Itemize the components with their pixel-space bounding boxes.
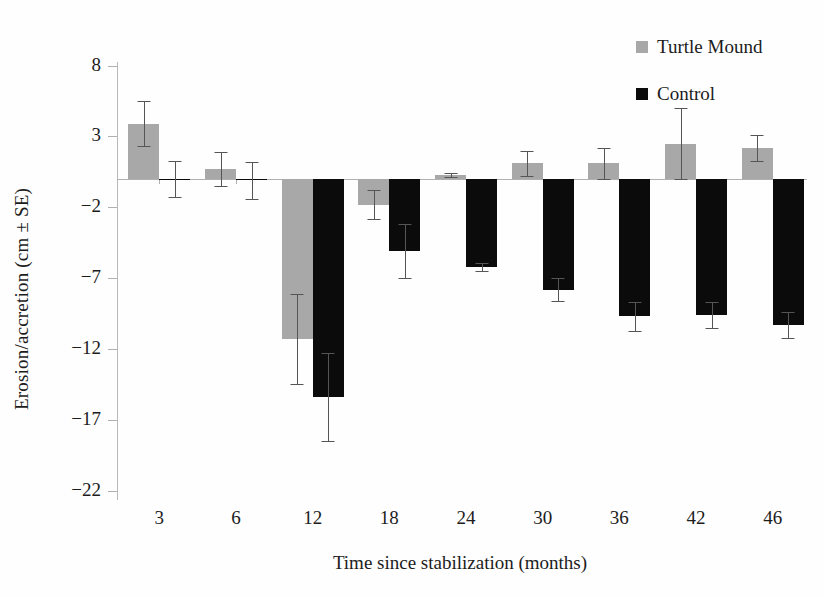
bar-control-46 bbox=[773, 179, 804, 325]
y-axis-tick-label: −17 bbox=[71, 408, 101, 430]
error-bar-cap bbox=[137, 101, 150, 102]
error-bar bbox=[788, 312, 789, 338]
error-bar-cap bbox=[214, 152, 227, 153]
x-axis-tick-label: 24 bbox=[457, 507, 476, 529]
legend-label: Control bbox=[657, 83, 715, 105]
y-axis-line bbox=[117, 62, 118, 500]
error-bar bbox=[175, 161, 176, 198]
error-bar-cap bbox=[628, 302, 641, 303]
error-bar bbox=[221, 152, 222, 186]
y-axis-tick: −7 bbox=[108, 278, 117, 279]
error-bar-cap bbox=[291, 294, 304, 295]
error-bar bbox=[558, 278, 559, 301]
error-bar-cap bbox=[245, 162, 258, 163]
error-bar-cap bbox=[444, 177, 457, 178]
error-bar-cap bbox=[291, 384, 304, 385]
error-bar-cap bbox=[674, 179, 687, 180]
y-axis-tick: −12 bbox=[108, 349, 117, 350]
error-bar bbox=[757, 135, 758, 161]
y-axis-tick-label: 3 bbox=[92, 124, 102, 146]
error-bar-cap bbox=[398, 278, 411, 279]
y-axis-title: Erosion/accretion (cm ± SE) bbox=[0, 0, 44, 598]
error-bar-cap bbox=[398, 224, 411, 225]
y-axis-tick: −2 bbox=[108, 207, 117, 208]
y-axis-tick-label: −7 bbox=[81, 266, 101, 288]
x-axis-tick-label: 46 bbox=[763, 507, 782, 529]
error-bar-cap bbox=[214, 186, 227, 187]
y-axis-tick-label: −12 bbox=[71, 337, 101, 359]
error-bar-cap bbox=[444, 173, 457, 174]
error-bar-cap bbox=[751, 161, 764, 162]
error-bar bbox=[482, 263, 483, 272]
error-bar bbox=[328, 353, 329, 441]
x-axis-tick-label: 18 bbox=[380, 507, 399, 529]
legend-swatch-icon bbox=[636, 41, 648, 53]
error-bar-cap bbox=[552, 301, 565, 302]
y-axis-tick: 8 bbox=[108, 66, 117, 67]
y-axis-tick: 3 bbox=[108, 136, 117, 137]
error-bar bbox=[405, 224, 406, 278]
bar-control-42 bbox=[696, 179, 727, 315]
error-bar-cap bbox=[475, 271, 488, 272]
error-bar-cap bbox=[705, 302, 718, 303]
error-bar bbox=[252, 162, 253, 199]
error-bar bbox=[144, 101, 145, 146]
error-bar bbox=[604, 148, 605, 179]
y-axis-tick-label: −22 bbox=[71, 479, 101, 501]
error-bar-cap bbox=[168, 197, 181, 198]
error-bar bbox=[527, 151, 528, 177]
error-bar-cap bbox=[137, 146, 150, 147]
error-bar-cap bbox=[628, 331, 641, 332]
error-bar-cap bbox=[552, 278, 565, 279]
error-bar-cap bbox=[782, 338, 795, 339]
y-axis-tick-label: −2 bbox=[81, 195, 101, 217]
legend-swatch-icon bbox=[636, 88, 648, 100]
error-bar-cap bbox=[245, 199, 258, 200]
y-axis-tick: −17 bbox=[108, 420, 117, 421]
error-bar-cap bbox=[367, 219, 380, 220]
x-axis-title: Time since stabilization (months) bbox=[110, 552, 810, 574]
chart-figure: Erosion/accretion (cm ± SE) 83−2−7−12−17… bbox=[0, 0, 824, 598]
x-axis-tick-label: 42 bbox=[687, 507, 706, 529]
error-bar-cap bbox=[322, 441, 335, 442]
error-bar bbox=[712, 302, 713, 328]
error-bar-cap bbox=[168, 161, 181, 162]
x-axis-tick-label: 6 bbox=[231, 507, 241, 529]
x-axis-tick-label: 30 bbox=[533, 507, 552, 529]
error-bar-cap bbox=[597, 179, 610, 180]
bar-control-30 bbox=[543, 179, 574, 290]
error-bar-cap bbox=[322, 353, 335, 354]
x-axis-tick-label: 12 bbox=[303, 507, 322, 529]
error-bar-cap bbox=[782, 312, 795, 313]
y-axis-tick: −22 bbox=[108, 491, 117, 492]
bar-control-24 bbox=[466, 179, 497, 267]
error-bar-cap bbox=[367, 190, 380, 191]
error-bar bbox=[635, 302, 636, 330]
x-axis-tick-label: 3 bbox=[155, 507, 165, 529]
error-bar-cap bbox=[521, 176, 534, 177]
error-bar-cap bbox=[597, 148, 610, 149]
chart-legend: Turtle MoundControl bbox=[636, 36, 762, 130]
error-bar bbox=[297, 294, 298, 385]
y-axis-tick-label: 8 bbox=[92, 54, 102, 76]
legend-item: Control bbox=[636, 83, 762, 105]
legend-label: Turtle Mound bbox=[657, 36, 762, 58]
x-axis-tick-label: 36 bbox=[610, 507, 629, 529]
error-bar-cap bbox=[751, 135, 764, 136]
error-bar-cap bbox=[705, 328, 718, 329]
bar-control-36 bbox=[619, 179, 650, 316]
error-bar bbox=[374, 190, 375, 218]
legend-item: Turtle Mound bbox=[636, 36, 762, 58]
error-bar-cap bbox=[475, 263, 488, 264]
error-bar-cap bbox=[521, 151, 534, 152]
